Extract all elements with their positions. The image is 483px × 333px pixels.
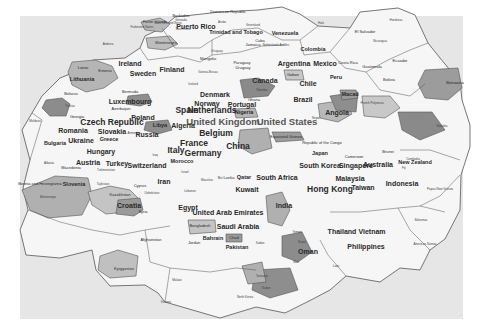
country-label: Libya <box>153 123 167 129</box>
country-label: Sweden <box>130 70 156 77</box>
country-label: Denmark <box>200 91 230 98</box>
country-label: Malaysia <box>335 175 364 182</box>
country-label: South Africa <box>256 174 297 181</box>
country-label: Ghana <box>248 98 260 102</box>
country-label: Cyprus <box>134 184 147 188</box>
country-label: Laos <box>333 265 340 268</box>
country-label: Bangladesh <box>189 224 210 228</box>
country-label: Indonesia <box>386 180 419 187</box>
country-label: Belgium <box>199 129 233 138</box>
country-label: Slovakia <box>98 128 126 135</box>
country-label: Sudan <box>256 242 265 245</box>
country-label: El Salvador <box>355 30 375 34</box>
country-label: Botswana <box>446 81 464 85</box>
country-label: American Samoa <box>413 243 436 246</box>
country-label: Ukraine <box>68 137 94 144</box>
country-label: Brunei <box>382 150 394 154</box>
country-label: Georgia <box>70 115 84 119</box>
country-label: Hungary <box>87 148 115 155</box>
country-label: Tunisia <box>65 105 75 108</box>
country-label: Mexico <box>313 60 337 67</box>
country-label: Lebanon <box>184 190 196 193</box>
country-label: Costa Rica <box>338 61 358 65</box>
country-label: Saint Lucia <box>176 28 191 31</box>
country-label: Macau <box>341 92 358 98</box>
country-label: Republic of the Congo <box>302 141 342 145</box>
country-label: Oman <box>298 248 318 255</box>
country-label: Fiji <box>402 167 406 170</box>
country-label: United States <box>257 117 318 127</box>
country-label: Canada <box>252 77 277 84</box>
country-label: Qatar <box>237 175 251 181</box>
country-label: Afghanistan <box>140 238 161 242</box>
country-label: Colombia <box>300 47 325 53</box>
country-label: Israel <box>181 171 188 174</box>
country-label: Cuba <box>255 39 265 43</box>
country-label: Uzbekistan <box>145 192 160 195</box>
country-label: United Kingdom <box>186 117 259 127</box>
country-label: Thailand <box>328 228 357 235</box>
country-label: Saudi Arabia <box>217 223 260 230</box>
country-label: Mauritius <box>201 179 213 182</box>
country-label: Guinea-Bissau <box>198 71 218 74</box>
country-label: Pakistan <box>226 245 249 251</box>
country-label: Iceland <box>188 83 198 86</box>
country-label: Germany <box>185 149 222 158</box>
country-label: Chad <box>229 236 239 240</box>
country-label: Czech Republic <box>80 118 143 127</box>
country-label: Equatorial Guinea <box>270 135 302 139</box>
country-label: French Polynesia <box>360 102 383 105</box>
country-label: Faroe Islands <box>143 20 167 24</box>
country-label: North Korea <box>237 296 253 299</box>
country-label: Russia <box>136 131 159 138</box>
country-label: Sri Lanka <box>218 176 235 180</box>
country-label: Nepal <box>298 241 306 244</box>
country-label: Bermuda <box>122 90 138 94</box>
country-label: Japan <box>312 151 328 157</box>
country-label: Iran <box>158 178 171 185</box>
country-label: Cameroon <box>345 155 364 159</box>
country-label: Algeria <box>171 122 195 129</box>
country-label: Croatia <box>117 202 141 209</box>
country-label: Belarus <box>64 92 78 96</box>
country-label: Netherlands Antilles <box>263 44 290 47</box>
country-label: Montenegro <box>40 196 56 199</box>
map-stage: Dominican RepublicArubaBarbadosSaint Kit… <box>0 0 483 333</box>
country-label: Malawi <box>172 279 181 282</box>
country-label: Nigeria <box>235 110 254 116</box>
country-label: Dominican Republic <box>210 10 246 14</box>
country-label: Iraq <box>152 154 157 157</box>
country-label: Grenada <box>175 19 187 22</box>
country-label: South Korea <box>299 162 341 169</box>
country-label: Philippines <box>347 243 384 250</box>
country-label: Guatemala <box>362 65 382 69</box>
country-label: Mali <box>293 261 299 264</box>
country-label: Taiwan <box>351 184 374 191</box>
country-label: Albania <box>44 162 54 165</box>
country-label: Australia <box>363 161 393 168</box>
country-label: Bahamas <box>415 219 428 222</box>
country-label: Honduras <box>389 19 402 22</box>
country-label: Latvia <box>78 66 89 70</box>
country-label: Gabon <box>287 73 299 77</box>
country-label: Greece <box>100 137 119 143</box>
country-label: Estonia <box>98 69 111 73</box>
country-label: Peru <box>330 75 342 81</box>
country-label: Tanzania <box>256 275 268 278</box>
country-label: Papua New Guinea <box>427 188 453 191</box>
country-label: Bulgaria <box>44 141 66 147</box>
country-label: India <box>276 202 292 209</box>
country-label: Argentina <box>278 60 311 67</box>
country-label: Turkmenistan <box>97 169 115 172</box>
country-label: Bosnia and Herzegovina <box>18 182 62 186</box>
country-label: Namibia <box>436 125 447 128</box>
country-label: Tajikistan <box>97 183 109 186</box>
country-label: Finland <box>160 66 185 73</box>
country-label: Lithuania <box>70 77 94 83</box>
country-label: Moldova <box>29 120 40 123</box>
country-label: Syria <box>138 210 147 214</box>
country-label: Aruba <box>218 21 226 24</box>
country-label: Jamaica <box>246 43 261 47</box>
country-label: Romania <box>58 127 88 134</box>
country-label: Turkey <box>106 160 128 167</box>
